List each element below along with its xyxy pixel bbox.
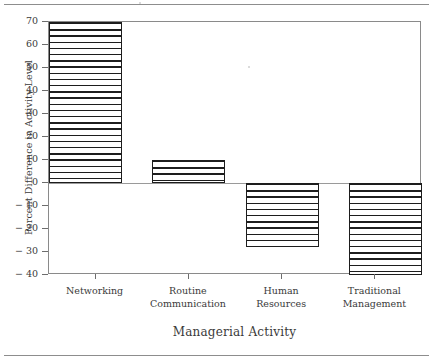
bar-chart-figure: Percent Difference in Activity Level 706… (0, 0, 433, 360)
y-axis-tick-label: − 20 (4, 223, 38, 233)
bar-networking (49, 22, 122, 183)
x-axis-tick-label-line: Traditional (328, 285, 421, 298)
y-axis-title: Percent Difference in Activity Level (22, 21, 36, 274)
bar-human-resources (246, 183, 319, 247)
x-axis-tick-label-line: Management (328, 298, 421, 311)
y-axis-tick-label: 50 (4, 62, 38, 72)
y-axis-tick (42, 274, 48, 275)
x-axis-tick (281, 274, 282, 279)
x-axis-tick-label: TraditionalManagement (328, 285, 421, 310)
scan-speck (248, 66, 250, 68)
bar-traditional-management (349, 183, 422, 275)
y-axis-tick-label: 10 (4, 154, 38, 164)
bar-routine-communication (152, 160, 225, 183)
y-axis-tick-label: 70 (4, 16, 38, 26)
y-axis-tick-label: 0 (4, 177, 38, 187)
x-axis-tick-label-line: Routine (141, 285, 234, 298)
x-axis-tick (188, 274, 189, 279)
x-axis-tick-label-line: Networking (48, 285, 141, 298)
y-axis-tick-label: 20 (4, 131, 38, 141)
y-axis-tick-label: 30 (4, 108, 38, 118)
x-axis-tick-label: HumanResources (235, 285, 328, 310)
x-axis-tick (95, 274, 96, 279)
x-axis-tick-label-line: Communication (141, 298, 234, 311)
x-axis-title: Managerial Activity (48, 325, 421, 339)
y-axis-tick-label: − 10 (4, 200, 38, 210)
y-axis-tick-label: 60 (4, 39, 38, 49)
x-axis-tick-label: Networking (48, 285, 141, 298)
plot-area (48, 21, 421, 274)
y-axis-tick-label: 40 (4, 85, 38, 95)
x-axis-tick (374, 274, 375, 279)
x-axis-tick-label: RoutineCommunication (141, 285, 234, 310)
y-axis-tick-label: − 30 (4, 246, 38, 256)
x-axis-tick-label-line: Human (235, 285, 328, 298)
x-axis-tick-label-line: Resources (235, 298, 328, 311)
scan-speck (139, 2, 141, 4)
y-axis-tick-label: − 40 (4, 269, 38, 279)
